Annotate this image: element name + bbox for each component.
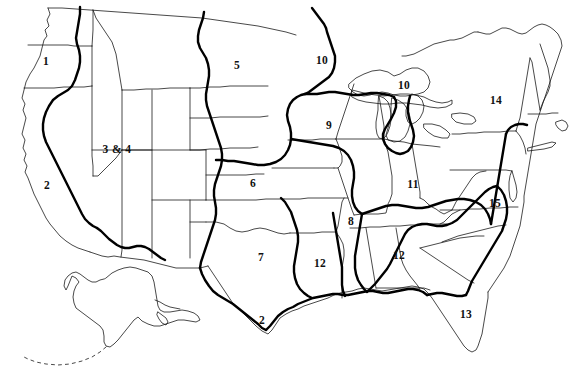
region-label-8: 8 (348, 216, 354, 228)
region-label-3-and-4: 3 & 4 (103, 144, 132, 156)
region-label-2-west: 2 (44, 180, 50, 192)
region-label-12-west: 12 (314, 258, 326, 270)
region-label-1: 1 (43, 56, 49, 68)
region-label-14: 14 (490, 95, 502, 107)
region-label-12-east: 12 (393, 250, 405, 262)
region-label-13: 13 (460, 309, 472, 321)
region-label-11: 11 (407, 179, 418, 191)
region-label-10-lakes: 10 (398, 80, 410, 92)
region-label-15: 15 (489, 198, 501, 210)
region-label-2-south: 2 (259, 315, 265, 327)
region-label-9: 9 (326, 120, 332, 132)
us-region-map: 1 2 3 & 4 5 6 7 8 9 10 10 11 12 12 13 14… (0, 0, 576, 375)
region-label-5: 5 (234, 60, 240, 72)
map-graphic (0, 0, 576, 375)
region-label-7: 7 (258, 252, 264, 264)
region-label-6: 6 (250, 178, 256, 190)
region-label-10-north: 10 (316, 55, 328, 67)
